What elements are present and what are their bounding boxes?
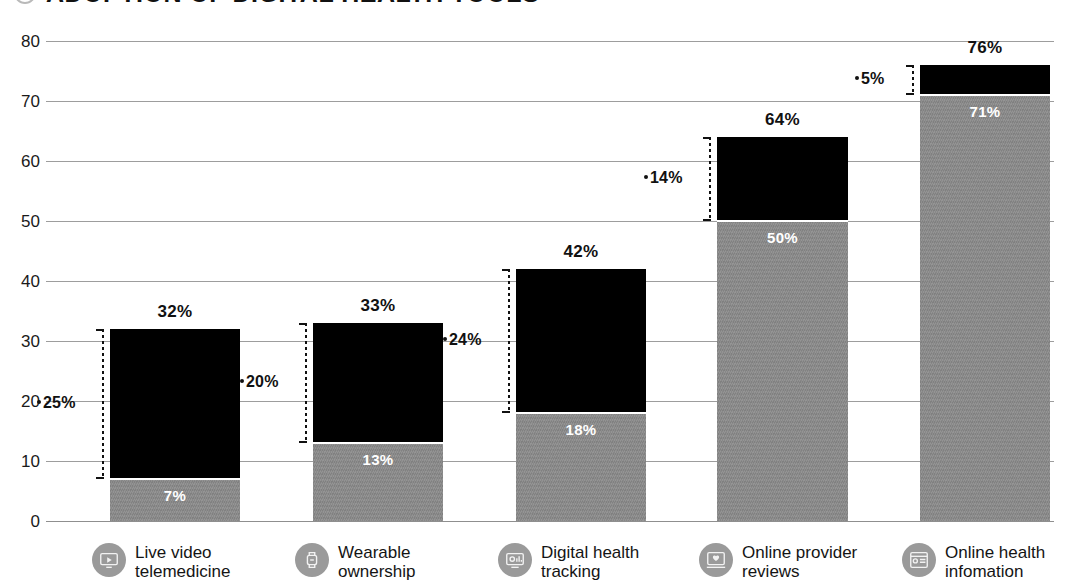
bar-segment-current (717, 221, 848, 521)
bracket-line (912, 65, 914, 95)
bar-segment-value-label: 7% (110, 487, 240, 504)
plot-area: 010203040506070807%32%25%Live video tele… (0, 0, 1070, 588)
category-label-1[interactable]: Live video telemedicine (92, 542, 230, 582)
bracket-cap-bottom (703, 219, 711, 221)
bracket-line (709, 137, 711, 221)
category-label-2[interactable]: Wearable ownership (295, 542, 416, 582)
category-label-3[interactable]: Digital health tracking (498, 542, 639, 582)
gridline-60 (46, 161, 1054, 162)
digital-tracking-icon (498, 543, 532, 577)
wearable-watch-icon (295, 543, 329, 577)
bracket-label: 25% (37, 394, 76, 412)
y-axis-tick-label: 80 (0, 33, 40, 50)
bracket-label: 14% (644, 169, 683, 187)
segment-divider (110, 478, 240, 480)
bar-segment-value-label: 50% (717, 229, 848, 246)
chart-root: ADOPTION OF DIGITAL HEALTH TOOLS 0102030… (0, 0, 1070, 588)
bracket-line (508, 269, 510, 413)
bracket-label: 24% (443, 331, 482, 349)
y-axis-tick-label: 20 (0, 393, 40, 410)
category-label-text: Online health infomation (945, 542, 1045, 582)
bracket-cap-top (96, 329, 104, 331)
bar-segment-current (920, 95, 1050, 521)
bar-segment-growth (516, 269, 646, 413)
bar-total-label: 64% (717, 110, 848, 130)
growth-bracket (500, 269, 510, 413)
growth-bracket (297, 323, 307, 443)
bar-segment-growth (110, 329, 240, 479)
bracket-cap-top (906, 65, 914, 67)
category-label-text: Digital health tracking (541, 542, 639, 582)
bracket-cap-bottom (299, 441, 307, 443)
health-information-icon (902, 543, 936, 577)
bracket-label: 20% (240, 373, 279, 391)
growth-bracket (701, 137, 711, 221)
segment-divider (717, 220, 848, 222)
bracket-value-text: 5% (861, 70, 885, 87)
y-axis-tick-label: 0 (0, 513, 40, 530)
bar-total-label: 32% (110, 302, 240, 322)
bar-total-label: 33% (313, 296, 443, 316)
bracket-value-text: 25% (43, 394, 76, 411)
y-axis-tick-label: 10 (0, 453, 40, 470)
bracket-cap-bottom (502, 411, 510, 413)
bar-segment-growth (313, 323, 443, 443)
gridline-80 (46, 41, 1054, 42)
bracket-label: 5% (855, 70, 885, 88)
gridline-50 (46, 221, 1054, 222)
bracket-line (305, 323, 307, 443)
bar-total-label: 42% (516, 242, 646, 262)
bar-1[interactable]: 7% (110, 329, 240, 521)
bar-segment-value-label: 71% (920, 103, 1050, 120)
bar-4[interactable]: 50% (717, 137, 848, 521)
y-axis-tick-label: 60 (0, 153, 40, 170)
telemedicine-monitor-icon (92, 543, 126, 577)
bar-segment-growth (920, 65, 1050, 95)
bar-segment-value-label: 13% (313, 451, 443, 468)
category-label-text: Live video telemedicine (135, 542, 230, 582)
category-label-text: Wearable ownership (338, 542, 416, 582)
y-axis-tick-label: 50 (0, 213, 40, 230)
y-axis-tick-label: 40 (0, 273, 40, 290)
bracket-value-text: 20% (246, 373, 279, 390)
bar-3[interactable]: 18% (516, 269, 646, 521)
growth-bracket (904, 65, 914, 95)
y-axis-tick-label: 30 (0, 333, 40, 350)
bar-segment-value-label: 18% (516, 421, 646, 438)
provider-reviews-icon (699, 543, 733, 577)
segment-divider (516, 412, 646, 414)
category-label-5[interactable]: Online health infomation (902, 542, 1045, 582)
bar-total-label: 76% (920, 38, 1050, 58)
bar-2[interactable]: 13% (313, 323, 443, 521)
gridline-70 (46, 101, 1054, 102)
bar-segment-growth (717, 137, 848, 221)
category-label-4[interactable]: Online provider reviews (699, 542, 857, 582)
y-axis-tick-label: 70 (0, 93, 40, 110)
bracket-value-text: 24% (449, 331, 482, 348)
growth-bracket (94, 329, 104, 479)
bar-5[interactable]: 71% (920, 65, 1050, 521)
segment-divider (920, 94, 1050, 96)
bracket-value-text: 14% (650, 169, 683, 186)
bracket-line (102, 329, 104, 479)
bracket-cap-bottom (906, 93, 914, 95)
bracket-cap-top (502, 269, 510, 271)
category-label-text: Online provider reviews (742, 542, 857, 582)
bracket-cap-bottom (96, 477, 104, 479)
bracket-cap-top (299, 323, 307, 325)
segment-divider (313, 442, 443, 444)
bracket-cap-top (703, 137, 711, 139)
